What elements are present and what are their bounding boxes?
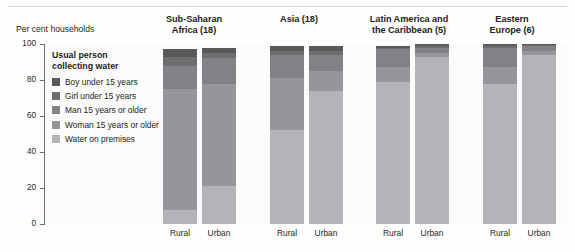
group-title-line1: Latin America and [357,14,461,25]
y-axis-tick [40,152,44,153]
y-axis-tick [40,224,44,225]
category-label-urban: Urban [304,228,348,238]
y-axis-tick-label: 100 [10,39,36,48]
bar-segment [376,49,410,67]
legend-swatch-icon [52,106,60,114]
bar-segment [483,48,517,68]
legend-item-label: Woman 15 years or older [65,120,159,130]
bar-segment [270,78,304,130]
legend-title-line1: Usual person [52,50,182,61]
stacked-bar [376,44,410,224]
bar-segment [309,55,343,71]
bar-segment [309,91,343,224]
legend-swatch-icon [52,121,60,129]
group-title-line1: Sub-Saharan [148,14,240,25]
stacked-bar [522,44,556,224]
bar-segment [202,58,236,83]
category-label-rural: Rural [265,228,309,238]
y-axis-tick-label: 0 [10,219,36,228]
group-title-asia: Asia (18) [253,14,345,25]
y-axis-tick [40,80,44,81]
stacked-bar [202,44,236,224]
y-axis-tick [40,116,44,117]
bar-segment [202,84,236,187]
top-divider [8,6,567,7]
legend-item: Girl under 15 years [52,91,182,101]
bar-segment [270,130,304,224]
y-axis-tick-label: 40 [10,147,36,156]
group-title-latin-america-caribbean: Latin America and the Caribbean (5) [357,14,461,37]
legend-item-label: Man 15 years or older [65,105,146,115]
category-label-rural: Rural [371,228,415,238]
category-label-urban: Urban [410,228,454,238]
bar-segment [163,210,197,224]
y-axis-tick [40,44,44,45]
stacked-bar [415,44,449,224]
y-axis-tick-label: 60 [10,111,36,120]
category-label-urban: Urban [517,228,561,238]
bar-segment [202,186,236,224]
bar-segment [376,82,410,224]
bar-segment [522,55,556,224]
category-label-rural: Rural [478,228,522,238]
chart-figure: Sub-Saharan Africa (18) Asia (18) Latin … [0,0,575,252]
legend-item: Man 15 years or older [52,105,182,115]
group-title-line1: Asia (18) [253,14,345,25]
y-axis-title: Per cent households [16,24,94,34]
legend-swatch-icon [52,135,60,143]
group-title-sub-saharan-africa: Sub-Saharan Africa (18) [148,14,240,37]
bar-segment [483,67,517,83]
stacked-bar [270,44,304,224]
legend-item: Woman 15 years or older [52,120,182,130]
legend-item-label: Boy under 15 years [65,77,138,87]
legend-item-label: Water on premises [65,134,135,144]
group-title-line2: Africa (18) [148,25,240,36]
y-axis-line [44,44,45,225]
bar-segment [270,55,304,78]
group-title-eastern-europe: Eastern Europe (6) [466,14,558,37]
legend-item-label: Girl under 15 years [65,91,136,101]
legend-title: Usual person collecting water [52,50,182,72]
group-title-line1: Eastern [466,14,558,25]
legend-item: Water on premises [52,134,182,144]
y-axis-tick-label: 20 [10,183,36,192]
bar-segment [376,67,410,81]
bar-segment [415,57,449,224]
group-title-line2: Europe (6) [466,25,558,36]
legend-item: Boy under 15 years [52,77,182,87]
category-label-urban: Urban [197,228,241,238]
bar-segment [483,84,517,224]
legend-items: Boy under 15 yearsGirl under 15 yearsMan… [52,77,182,144]
y-axis-tick [40,188,44,189]
group-title-line2: the Caribbean (5) [357,25,461,36]
y-axis-tick-label: 80 [10,75,36,84]
category-label-rural: Rural [158,228,202,238]
legend-swatch-icon [52,78,60,86]
legend: Usual person collecting water Boy under … [52,50,182,148]
stacked-bar [483,44,517,224]
legend-swatch-icon [52,92,60,100]
bar-segment [309,71,343,91]
stacked-bar [309,44,343,224]
legend-title-line2: collecting water [52,61,182,72]
